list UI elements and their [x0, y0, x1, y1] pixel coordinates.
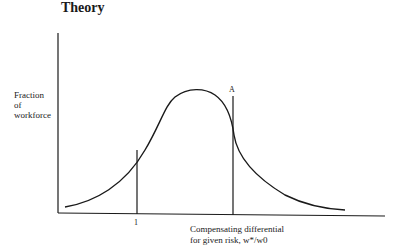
- x-axis-label: Compensating differential for given risk…: [190, 224, 284, 246]
- distribution-diagram: [0, 0, 401, 249]
- x-tick-label-1: 1: [134, 218, 138, 227]
- x-axis: [58, 213, 385, 216]
- distribution-curve: [65, 90, 345, 210]
- x-axis-label-line1: Compensating differential: [190, 224, 284, 235]
- marker-label-a: A: [229, 85, 235, 94]
- x-axis-label-line2: for given risk, w*/w0: [190, 235, 284, 246]
